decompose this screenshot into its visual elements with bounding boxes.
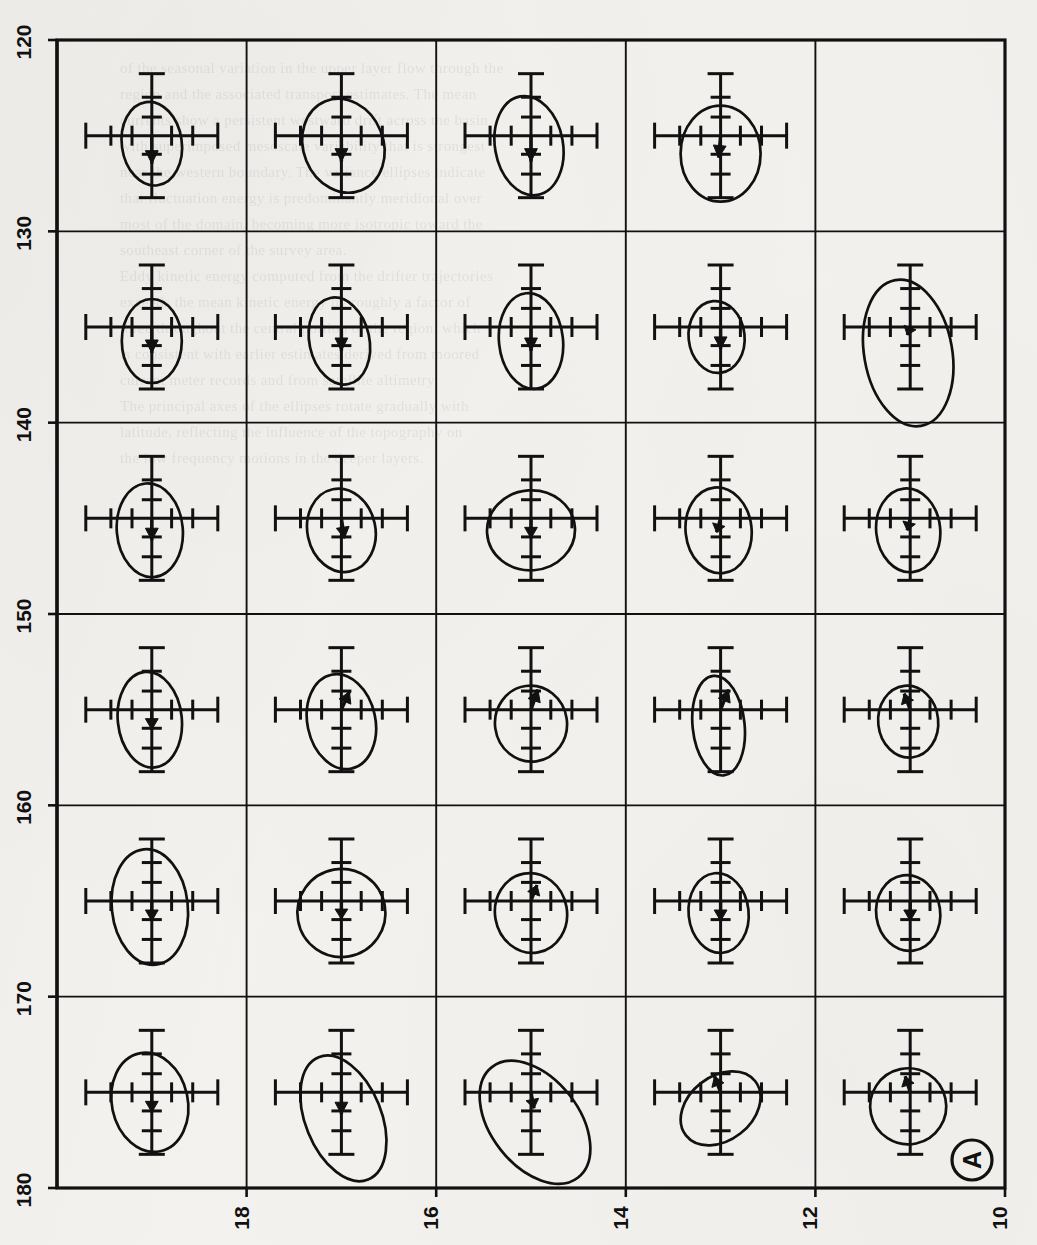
mean-vector-arrowhead xyxy=(335,1102,348,1114)
mean-vector-arrowhead xyxy=(902,1076,914,1087)
mean-vector-arrowhead xyxy=(714,337,727,349)
cell-glyph-r3-c1 xyxy=(86,456,218,580)
panel-label-letter: A xyxy=(958,1151,986,1169)
cell-glyph-r1-c2 xyxy=(275,74,407,205)
longitude-axis-tick-label: 10 xyxy=(988,1206,1011,1229)
cell-glyph-r1-c3 xyxy=(465,74,597,201)
variance-ellipse xyxy=(457,1040,613,1204)
cell-glyph-r3-c3 xyxy=(465,456,597,580)
cell-glyph-r5-c2 xyxy=(275,839,407,964)
cell-glyph-r1-c1 xyxy=(86,74,218,198)
latitude-axis-tick-label: 180 xyxy=(12,1172,35,1207)
latitude-axis-tick-label: 160 xyxy=(12,790,35,825)
latitude-axis-tick-label: 140 xyxy=(12,407,35,442)
cell-glyph-r4-c2 xyxy=(275,648,407,776)
mean-vector-arrowhead xyxy=(526,1098,539,1108)
mean-vector-arrowhead xyxy=(903,521,915,530)
cell-glyph-r4-c4 xyxy=(655,648,787,778)
cell-glyph-r4-c5 xyxy=(844,648,976,772)
cell-glyph-r5-c5 xyxy=(844,839,976,963)
cell-glyph-r4-c1 xyxy=(86,648,218,772)
latitude-axis-tick-label: 120 xyxy=(12,24,35,59)
mean-vector-arrowhead xyxy=(145,528,158,540)
cell-glyph-r2-c3 xyxy=(465,265,597,392)
mean-vector-arrowhead xyxy=(335,909,348,919)
cell-glyph-r5-c4 xyxy=(655,839,787,963)
cells-layer xyxy=(86,74,976,1205)
variance-ellipse xyxy=(688,673,750,778)
cell-glyph-r3-c2 xyxy=(275,456,407,580)
figure-panel-a: 1201301401501601701801816141210A xyxy=(0,0,1037,1245)
cell-glyph-r2-c2 xyxy=(275,265,407,390)
longitude-axis-tick-label: 16 xyxy=(419,1206,442,1229)
latitude-axis-tick-label: 130 xyxy=(12,216,35,251)
variance-ellipse xyxy=(487,91,571,201)
cell-glyph-r2-c5 xyxy=(844,265,976,434)
cell-glyph-r6-c4 xyxy=(655,1030,787,1160)
cell-glyph-r4-c3 xyxy=(465,648,597,772)
cell-glyph-r2-c1 xyxy=(86,265,218,389)
longitude-axis-tick-label: 12 xyxy=(798,1206,821,1229)
cell-glyph-r6-c2 xyxy=(275,1030,407,1193)
cell-glyph-r6-c3 xyxy=(457,1030,613,1204)
longitude-axis-tick-label: 18 xyxy=(230,1206,253,1230)
cell-glyph-r2-c4 xyxy=(655,265,787,389)
cell-glyph-r6-c1 xyxy=(86,1030,218,1159)
cell-glyph-r5-c1 xyxy=(86,839,218,969)
latitude-axis-tick-label: 150 xyxy=(12,598,35,633)
cell-glyph-r5-c3 xyxy=(465,839,597,963)
longitude-axis-tick-label: 14 xyxy=(609,1206,632,1230)
cell-glyph-r6-c5 xyxy=(844,1030,976,1154)
cell-glyph-r1-c4 xyxy=(655,74,787,202)
cell-glyph-r3-c5 xyxy=(844,456,976,580)
mean-vector-arrowhead xyxy=(145,151,158,164)
latitude-axis-tick-label: 170 xyxy=(12,981,35,1016)
variance-ellipse xyxy=(852,272,964,433)
variance-ellipse xyxy=(283,1043,403,1194)
mean-vector-arrowhead xyxy=(713,523,725,532)
cell-glyph-r3-c4 xyxy=(655,456,787,580)
